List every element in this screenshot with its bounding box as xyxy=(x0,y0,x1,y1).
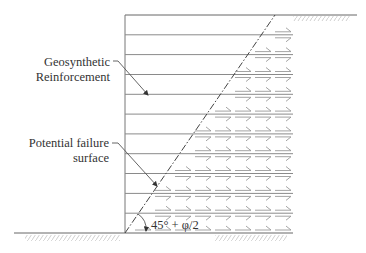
arrow-icon xyxy=(275,157,291,161)
arrow-icon xyxy=(235,157,251,161)
label-potential-failure: Potential failure xyxy=(29,136,110,150)
arrow-icon xyxy=(235,97,251,101)
arrow-icon xyxy=(215,206,231,210)
arrow-icon xyxy=(275,97,291,101)
arrow-icon xyxy=(275,48,291,52)
arrow-icon xyxy=(235,177,251,181)
arrow-icon xyxy=(175,186,191,190)
arrow-icon xyxy=(275,206,291,210)
label-geosynthetic: Geosynthetic xyxy=(44,55,110,69)
arrow-icon xyxy=(215,186,231,190)
arrow-icon xyxy=(195,137,211,141)
arrow-icon xyxy=(275,107,291,111)
arrow-icon xyxy=(255,58,271,62)
reinforced-wall-diagram: Geosynthetic Reinforcement Potential fai… xyxy=(0,0,366,253)
label-angle: 45° + φ/2 xyxy=(151,218,199,232)
arrow-icon xyxy=(175,177,191,181)
reinforcement-leader xyxy=(113,61,148,95)
arrow-icon xyxy=(235,196,251,200)
arrow-icon xyxy=(175,206,191,210)
ground-hatch-left xyxy=(25,235,120,241)
arrow-icon xyxy=(235,216,251,220)
arrow-icon xyxy=(255,147,271,151)
arrow-icon xyxy=(255,186,271,190)
arrow-icon xyxy=(235,226,251,230)
arrow-icon xyxy=(255,97,271,101)
arrow-icon xyxy=(275,78,291,82)
arrow-icon xyxy=(275,167,291,171)
arrow-icon xyxy=(235,107,251,111)
arrow-icon xyxy=(255,68,271,72)
arrow-icon xyxy=(255,78,271,82)
arrow-icon xyxy=(155,206,171,210)
arrow-icon xyxy=(195,186,211,190)
arrow-icon xyxy=(215,107,231,111)
arrow-icon xyxy=(215,196,231,200)
arrow-icon xyxy=(195,206,211,210)
arrow-icon xyxy=(215,157,231,161)
arrow-icon xyxy=(275,28,291,32)
arrow-icon xyxy=(215,147,231,151)
arrow-icon xyxy=(235,147,251,151)
arrow-icon xyxy=(195,147,211,151)
arrow-icon xyxy=(235,117,251,121)
arrow-icon xyxy=(255,117,271,121)
arrow-icon xyxy=(175,196,191,200)
arrow-icon xyxy=(255,167,271,171)
arrow-icon xyxy=(215,137,231,141)
arrow-icon xyxy=(235,87,251,91)
label-reinforcement: Reinforcement xyxy=(36,70,111,84)
arrow-icon xyxy=(275,127,291,131)
arrow-icon xyxy=(215,127,231,131)
arrow-icon xyxy=(275,68,291,72)
arrow-icon xyxy=(255,196,271,200)
arrow-icon xyxy=(235,137,251,141)
arrow-icon xyxy=(235,186,251,190)
arrow-icon xyxy=(255,48,271,52)
arrow-icon xyxy=(235,206,251,210)
arrow-icon xyxy=(235,68,251,72)
arrow-icon xyxy=(255,127,271,131)
arrow-icon xyxy=(215,167,231,171)
arrow-icon xyxy=(235,127,251,131)
arrow-icon xyxy=(255,226,271,230)
arrow-icon xyxy=(255,177,271,181)
arrow-icon xyxy=(235,78,251,82)
arrow-icon xyxy=(275,226,291,230)
arrow-icon xyxy=(195,196,211,200)
arrow-icon xyxy=(255,216,271,220)
arrow-icon xyxy=(155,196,171,200)
arrow-icon xyxy=(275,137,291,141)
arrow-icon xyxy=(275,38,291,42)
arrow-icon xyxy=(175,167,191,171)
arrow-icon xyxy=(215,226,231,230)
ground-hatch-right xyxy=(215,235,287,241)
top-hatch xyxy=(293,16,350,21)
reinforcement-layers xyxy=(125,35,293,213)
arrow-icon xyxy=(255,206,271,210)
label-surface: surface xyxy=(73,151,110,165)
arrow-icon xyxy=(195,157,211,161)
arrow-icon xyxy=(275,58,291,62)
arrow-icon xyxy=(155,186,171,190)
failure-leader xyxy=(112,143,157,186)
arrow-icon xyxy=(235,167,251,171)
arrow-icon xyxy=(275,147,291,151)
arrow-icon xyxy=(135,226,151,230)
arrow-icon xyxy=(275,87,291,91)
arrow-icon xyxy=(255,137,271,141)
arrow-icon xyxy=(275,216,291,220)
arrow-icon xyxy=(215,117,231,121)
arrow-icon xyxy=(195,177,211,181)
arrow-icon xyxy=(215,177,231,181)
pullout-arrows xyxy=(135,28,291,230)
arrow-icon xyxy=(275,117,291,121)
arrow-icon xyxy=(195,167,211,171)
arrow-icon xyxy=(215,216,231,220)
arrow-icon xyxy=(255,107,271,111)
arrow-icon xyxy=(255,87,271,91)
arrow-icon xyxy=(275,196,291,200)
arrow-icon xyxy=(255,157,271,161)
angle-arc xyxy=(138,214,146,231)
arrow-icon xyxy=(275,177,291,181)
